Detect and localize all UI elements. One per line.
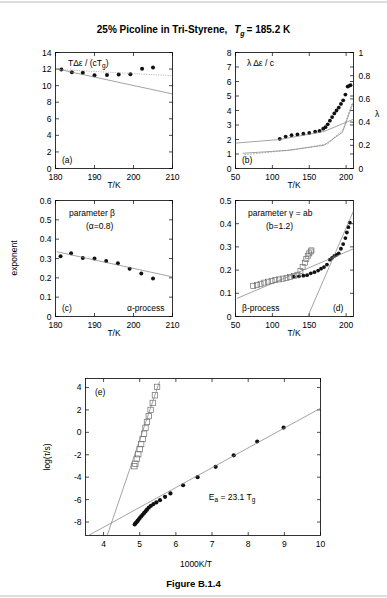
figure-b-1-4: 25% Picoline in Tri-Styrene, Tg= 185.2 K… [0,0,387,598]
axis-tick-label: 200 [126,320,140,330]
axis-tick-label: 190 [87,172,101,182]
axis-tick-label: 4 [47,130,52,140]
data-point [163,495,167,499]
panel-a: 02468101214 180190200210 TΔε / (cTg) (a)… [42,48,180,191]
axis-tick-label: 200 [339,320,353,330]
panel-c-label: (c) [62,303,72,313]
axis-tick-label: 100 [265,320,279,330]
figure-title-tg-sub: g [239,30,245,38]
axis-tick-label: 0.1 [220,288,232,298]
svg-text:25% Picoline in Tri-Styrene,: 25% Picoline in Tri-Styrene, Tg= 185.2 K [97,24,291,38]
axis-tick-label: 50 [231,172,241,182]
data-point [341,242,345,246]
axis-tick-label: 4 [101,539,106,549]
axis-tick-label: 100 [265,172,279,182]
data-point [309,271,313,275]
data-point [151,66,155,70]
data-point [105,73,109,77]
data-point [326,122,330,126]
axis-tick-label: 190 [87,320,101,330]
axis-tick-label: 0 [359,164,364,174]
figure-caption: Figure B.1.4 [166,578,221,589]
panel-d: 00.10.20.30.40.5 50100150200 parameter γ… [220,196,354,339]
axis-tick-label: 6 [174,539,179,549]
axis-tick-label: 0.4 [359,117,371,127]
panel-d-xlabel: T/K [287,328,301,338]
axis-tick-label: 0.2 [359,140,371,150]
axis-tick-label: 6 [47,114,52,124]
axis-tick-label: 180 [48,172,62,182]
panel-a-xlabel: T/K [107,180,121,190]
panel-a-series [57,66,172,94]
panel-c-title: parameter β [69,208,115,218]
axis-tick-label: 5 [137,539,142,549]
data-point [304,256,309,261]
panel-c-xlabel: T/K [107,328,121,338]
fit-line [237,249,354,299]
fit-line [88,408,320,535]
axis-tick-label: 0.4 [40,234,52,244]
panel-c-annotation: α-process [127,303,165,313]
data-point [305,273,309,277]
panel-b: 012345678 00.20.40.60.81 50100150200 λ Δ… [227,48,380,191]
panel-e-annotation: Ea = 23.1 Tg [209,492,256,504]
figure-title-main: 25% Picoline in Tri-Styrene, [97,24,228,35]
axis-tick-label: 0.6 [359,94,371,104]
data-point [138,441,143,446]
data-point [151,276,155,280]
data-point [343,93,347,97]
axis-tick-label: 0.1 [40,292,52,302]
data-point [339,247,343,251]
axis-tick-label: 0.3 [220,242,232,252]
axis-tick-label: 0.8 [359,71,371,81]
axis-tick-label: 1 [359,48,364,58]
axis-tick-label: 8 [47,97,52,107]
panel-e-xlabel: 1000K/T [180,559,212,569]
panel-c-series [57,251,173,280]
axis-tick-label: 0.6 [40,196,52,206]
panel-b-y2label: λ [375,109,380,119]
data-point [349,83,353,87]
panel-d-subtitle: (b=1.2) [266,221,293,231]
fit-line [57,252,173,277]
data-point [254,282,259,287]
data-point [337,106,341,110]
data-point [154,500,158,504]
axis-tick-label: 2 [77,405,82,415]
panel-d-label: (d) [333,303,344,313]
axis-tick-label: 0.3 [40,254,52,264]
panel-e-series [88,381,320,535]
panel-b-label: (b) [242,155,253,165]
panel-e-ylabel: log(τ/s) [42,443,52,470]
data-point [341,98,345,102]
data-point [158,498,162,502]
panel-e-y-ticks: -8-6-4-2024 [74,382,321,527]
axis-tick-label: 210 [165,172,179,182]
data-point [322,265,326,269]
panel-d-title: parameter γ = ab [248,208,313,218]
panel-b-series [236,83,354,154]
data-point [137,446,142,451]
axis-tick-label: 0 [77,427,82,437]
panel-b-xlabel: T/K [287,180,301,190]
figure-title: 25% Picoline in Tri-Styrene, Tg= 185.2 K [97,24,291,38]
axis-tick-label: 6 [227,77,232,87]
data-point [139,272,143,276]
panel-c-subtitle: (α=0.8) [86,221,114,231]
axis-tick-label: -4 [74,472,82,482]
axis-tick-label: 150 [302,320,316,330]
figure-title-tg-val: = 185.2 K [247,24,291,35]
data-point [328,119,332,123]
data-point [301,274,305,278]
axis-tick-label: 0.5 [40,215,52,225]
axis-tick-label: 10 [42,81,52,91]
axis-tick-label: 5 [227,91,232,101]
axis-tick-label: -8 [74,517,82,527]
axis-tick-label: -6 [74,495,82,505]
axis-tick-label: 0.2 [40,273,52,283]
fit-line [236,119,354,143]
fit-line [308,211,354,317]
panel-c-ylabel: exponent [9,240,19,276]
panel-b-title: λ Δε / c [247,58,275,68]
data-point [339,102,343,106]
